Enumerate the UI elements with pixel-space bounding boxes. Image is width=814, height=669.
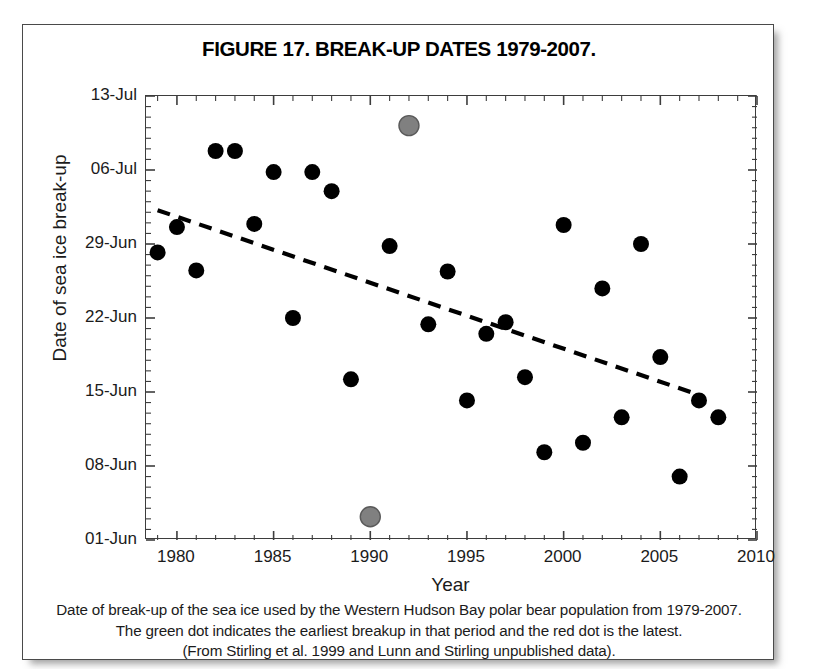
- data-point: 1979: 28-Jun: [150, 244, 166, 260]
- scatter-plot-svg: 1979: 28-Jun1980: 30-Jun1981: 26-Jun1982…: [146, 96, 757, 540]
- y-tick-label: 01-Jun: [51, 529, 137, 549]
- chart-area: Date of sea ice break-up 01-Jun08-Jun15-…: [23, 25, 775, 585]
- data-point: 1984: 30-Jun: [246, 216, 262, 232]
- data-point: 1994: 26-Jun: [440, 263, 456, 279]
- data-point: 2000: 30-Jun: [556, 217, 572, 233]
- data-point: 1980: 30-Jun: [169, 219, 185, 235]
- data-point: 2005: 18-Jun: [652, 349, 668, 365]
- data-point: 1998: 16-Jun: [517, 369, 533, 385]
- data-point: 1997: 21-Jun: [498, 314, 514, 330]
- y-tick-label: 13-Jul: [51, 85, 137, 105]
- data-point: 1982: 07-Jul: [208, 143, 224, 159]
- y-tick-label: 06-Jul: [51, 159, 137, 179]
- x-axis-tick-labels: 1980198519901995200020052010: [145, 547, 756, 571]
- data-point: 2001: 10-Jun: [575, 435, 591, 451]
- data-point: 1985: 05-Jul: [266, 164, 282, 180]
- data-point: 1995: 14-Jun: [459, 392, 475, 408]
- data-point: 2008: 12-Jun: [710, 409, 726, 425]
- y-tick-label: 29-Jun: [51, 233, 137, 253]
- data-point: 1989: 16-Jun: [343, 371, 359, 387]
- x-tick-label: 2000: [544, 547, 582, 567]
- x-axis-title: Year: [145, 574, 756, 596]
- data-point: 1996: 20-Jun: [478, 326, 494, 342]
- caption-line: The green dot indicates the earliest bre…: [29, 621, 769, 642]
- data-point: 1991: 28-Jun: [382, 238, 398, 254]
- data-point: 1981: 26-Jun: [188, 262, 204, 278]
- data-point: 2004: 29-Jun: [633, 236, 649, 252]
- x-tick-label: 2005: [640, 547, 678, 567]
- x-tick-label: 1990: [350, 547, 388, 567]
- x-tick-label: 1985: [254, 547, 292, 567]
- y-tick-label: 15-Jun: [51, 381, 137, 401]
- data-point: 1986: 22-Jun: [285, 310, 301, 326]
- data-point-highlight: 1992: 10-Jul: [399, 116, 419, 136]
- data-point: 2006: 07-Jun: [672, 469, 688, 485]
- y-tick-label: 08-Jun: [51, 455, 137, 475]
- figure-container: FIGURE 17. BREAK-UP DATES 1979-2007. Dat…: [22, 24, 774, 660]
- data-point: 2007: 14-Jun: [691, 392, 707, 408]
- data-point: 1999: 09-Jun: [536, 444, 552, 460]
- data-point: 1987: 05-Jul: [304, 164, 320, 180]
- caption-line: (From Stirling et al. 1999 and Lunn and …: [29, 641, 769, 662]
- x-tick-label: 2010: [737, 547, 775, 567]
- trendline: [158, 210, 703, 396]
- data-point: 1993: 21-Jun: [420, 316, 436, 332]
- y-axis-tick-labels: 01-Jun08-Jun15-Jun22-Jun29-Jun06-Jul13-J…: [41, 95, 137, 539]
- data-point: 2002: 24-Jun: [594, 280, 610, 296]
- y-tick-label: 22-Jun: [51, 307, 137, 327]
- figure-caption: Date of break-up of the sea ice used by …: [29, 600, 769, 662]
- data-point-highlight: 1990: 03-Jun: [360, 507, 380, 527]
- plot-box: 1979: 28-Jun1980: 30-Jun1981: 26-Jun1982…: [145, 95, 756, 539]
- x-tick-label: 1995: [447, 547, 485, 567]
- data-point: 2003: 12-Jun: [614, 409, 630, 425]
- caption-line: Date of break-up of the sea ice used by …: [29, 600, 769, 621]
- x-tick-label: 1980: [157, 547, 195, 567]
- data-point: 1983: 07-Jul: [227, 143, 243, 159]
- data-point: 1988: 04-Jul: [324, 183, 340, 199]
